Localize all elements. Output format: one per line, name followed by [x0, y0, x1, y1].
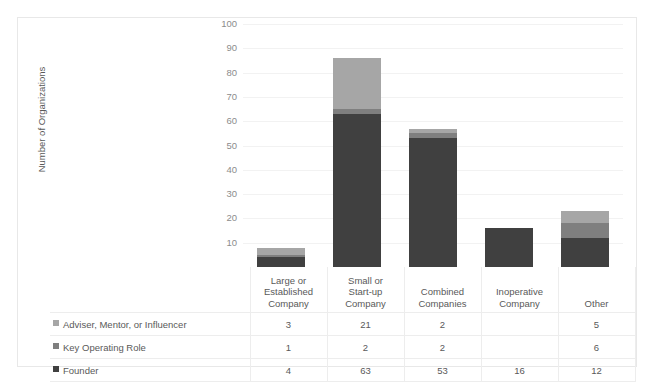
- column-header-line: Large or: [254, 275, 324, 287]
- column-header-3: CombinedCompanies: [404, 267, 481, 313]
- column-header-line: Company: [485, 298, 555, 310]
- table-body: Adviser, Mentor, or Influencer32125Key O…: [50, 313, 635, 382]
- data-cell: 2: [404, 336, 481, 359]
- bar-segment[interactable]: [333, 58, 381, 109]
- legend-swatch-icon: [53, 343, 59, 349]
- y-axis-tick-labels: 102030405060708090100: [211, 24, 237, 267]
- data-cell: 63: [327, 359, 404, 382]
- data-cell: 5: [558, 313, 635, 336]
- data-cell: 53: [404, 359, 481, 382]
- bar-slot: [243, 24, 319, 267]
- data-cell: 4: [250, 359, 327, 382]
- y-tick-90: 90: [211, 43, 237, 53]
- y-tick-60: 60: [211, 116, 237, 126]
- column-header-line: Small or: [331, 275, 401, 287]
- column-header-line: Company: [331, 298, 401, 310]
- bar-segment[interactable]: [561, 223, 609, 238]
- data-cell: 3: [250, 313, 327, 336]
- legend-swatch-icon: [53, 366, 59, 372]
- data-cell: 2: [404, 313, 481, 336]
- plot-area: 102030405060708090100: [211, 24, 623, 267]
- legend-label: Key Operating Role: [63, 342, 146, 353]
- y-tick-80: 80: [211, 68, 237, 78]
- bar-slot: [547, 24, 623, 267]
- data-cell: 16: [481, 359, 558, 382]
- data-cell: 12: [558, 359, 635, 382]
- legend-item[interactable]: Founder: [50, 359, 250, 382]
- y-tick-70: 70: [211, 92, 237, 102]
- y-tick-10: 10: [211, 238, 237, 248]
- column-header-1: Large orEstablishedCompany: [250, 267, 327, 313]
- column-header-5: Other: [558, 267, 635, 313]
- bar-segment[interactable]: [333, 114, 381, 267]
- bar-stack[interactable]: [409, 129, 457, 268]
- bar-stack[interactable]: [257, 248, 305, 267]
- y-tick-100: 100: [211, 19, 237, 29]
- column-header-line: Combined: [408, 286, 478, 298]
- data-cell: 21: [327, 313, 404, 336]
- chart-container: Number of Organizations 1020304050607080…: [17, 17, 637, 367]
- table-row: Adviser, Mentor, or Influencer32125: [50, 313, 635, 336]
- column-header-line: Inoperative: [485, 286, 555, 298]
- data-cell: [481, 336, 558, 359]
- bar-slot: [395, 24, 471, 267]
- bar-segment[interactable]: [485, 228, 533, 267]
- bar-segment[interactable]: [409, 138, 457, 267]
- column-header-2: Small orStart-upCompany: [327, 267, 404, 313]
- column-header-line: Established: [254, 286, 324, 298]
- bar-slot: [471, 24, 547, 267]
- bar-segment[interactable]: [257, 257, 305, 267]
- data-cell: [481, 313, 558, 336]
- bar-segment[interactable]: [561, 211, 609, 223]
- y-axis-title: Number of Organizations: [36, 35, 47, 205]
- y-tick-50: 50: [211, 141, 237, 151]
- data-table: Large orEstablishedCompanySmall orStart-…: [50, 267, 636, 382]
- y-tick-20: 20: [211, 213, 237, 223]
- bars-layer: [243, 24, 623, 267]
- column-header-4: InoperativeCompany: [481, 267, 558, 313]
- bar-stack[interactable]: [561, 211, 609, 267]
- column-header-line: Other: [562, 298, 632, 310]
- y-tick-30: 30: [211, 189, 237, 199]
- bar-slot: [319, 24, 395, 267]
- legend-header-cell: [50, 267, 250, 313]
- legend-item[interactable]: Adviser, Mentor, or Influencer: [50, 313, 250, 336]
- column-header-line: Company: [254, 298, 324, 310]
- legend-item[interactable]: Key Operating Role: [50, 336, 250, 359]
- bar-stack[interactable]: [333, 58, 381, 267]
- data-cell: 2: [327, 336, 404, 359]
- y-tick-40: 40: [211, 165, 237, 175]
- bar-segment[interactable]: [561, 238, 609, 267]
- column-header-line: Start-up: [331, 286, 401, 298]
- table-row: Key Operating Role1226: [50, 336, 635, 359]
- data-cell: 1: [250, 336, 327, 359]
- legend-label: Founder: [63, 365, 98, 376]
- table-row: Founder463531612: [50, 359, 635, 382]
- column-header-line: Companies: [408, 298, 478, 310]
- table-header-row: Large orEstablishedCompanySmall orStart-…: [50, 267, 635, 313]
- legend-label: Adviser, Mentor, or Influencer: [63, 319, 187, 330]
- bar-stack[interactable]: [485, 228, 533, 267]
- data-cell: 6: [558, 336, 635, 359]
- legend-swatch-icon: [53, 320, 59, 326]
- bar-segment[interactable]: [257, 248, 305, 255]
